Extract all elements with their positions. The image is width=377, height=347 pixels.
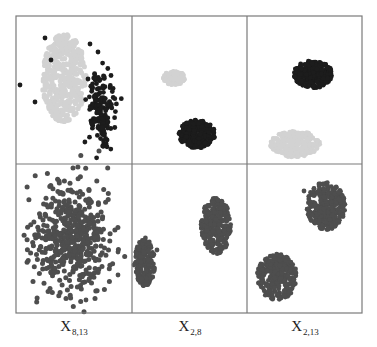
data-point: [308, 80, 313, 85]
data-point: [273, 269, 278, 274]
data-point: [31, 243, 36, 248]
data-point: [284, 132, 289, 137]
data-point: [67, 278, 72, 283]
data-point: [87, 135, 92, 140]
data-point: [87, 197, 92, 202]
data-point: [101, 90, 106, 95]
data-point: [26, 258, 31, 263]
data-point: [215, 242, 220, 247]
data-point: [65, 240, 70, 245]
data-point: [69, 228, 74, 233]
data-point: [103, 136, 108, 141]
data-point: [198, 132, 203, 137]
data-point: [50, 80, 55, 85]
data-point: [28, 250, 33, 255]
data-point: [138, 254, 143, 259]
data-point: [174, 70, 179, 75]
data-point: [289, 260, 294, 265]
data-point: [203, 141, 208, 146]
data-point: [313, 202, 318, 207]
data-point: [139, 260, 144, 265]
data-point: [303, 149, 308, 154]
data-point: [103, 200, 108, 205]
data-point: [71, 304, 76, 309]
data-point: [214, 247, 219, 252]
data-point: [100, 85, 105, 90]
data-point: [278, 254, 283, 259]
data-point: [228, 222, 233, 227]
data-point: [48, 109, 53, 114]
data-point: [337, 198, 342, 203]
column-label-1-main: X: [60, 318, 71, 334]
data-point: [184, 134, 189, 139]
data-point: [95, 230, 100, 235]
data-point: [57, 238, 62, 243]
data-point: [278, 264, 283, 269]
data-point: [162, 78, 167, 83]
data-point: [41, 77, 46, 82]
data-point: [75, 234, 80, 239]
data-point: [43, 237, 48, 242]
column-label-1-subscript: 8,13: [72, 327, 88, 337]
data-point: [92, 249, 97, 254]
data-point: [299, 79, 304, 84]
column-label-2: X2,8: [178, 318, 201, 337]
data-point: [223, 245, 228, 250]
data-point: [31, 279, 36, 284]
data-point: [64, 296, 69, 301]
data-point: [289, 139, 294, 144]
data-point: [225, 215, 230, 220]
data-point: [259, 285, 264, 290]
data-point: [95, 87, 100, 92]
data-point: [77, 260, 82, 265]
data-point: [44, 82, 49, 87]
data-point: [57, 232, 62, 237]
data-point: [53, 246, 58, 251]
data-point: [144, 282, 149, 287]
data-point: [212, 135, 217, 140]
data-point: [307, 142, 312, 147]
data-point: [321, 186, 326, 191]
data-point: [206, 245, 211, 250]
data-point: [51, 226, 56, 231]
data-point: [108, 126, 113, 131]
data-point: [276, 149, 281, 154]
data-point: [95, 219, 100, 224]
data-point: [139, 276, 144, 281]
data-point: [293, 67, 298, 72]
data-point: [63, 101, 68, 106]
data-point: [93, 296, 98, 301]
data-point: [71, 112, 76, 117]
data-point: [299, 67, 304, 72]
data-point: [265, 269, 270, 274]
data-point: [79, 49, 84, 54]
data-point: [322, 207, 327, 212]
data-point: [319, 71, 324, 76]
data-point: [79, 91, 84, 96]
data-point: [32, 264, 37, 269]
data-point: [176, 78, 181, 83]
data-point: [272, 285, 277, 290]
data-point: [258, 264, 263, 269]
data-point: [310, 61, 315, 66]
data-point: [304, 72, 309, 77]
data-point: [43, 36, 48, 41]
data-point: [78, 299, 83, 304]
data-point: [100, 216, 105, 221]
data-point: [56, 293, 61, 298]
data-point: [208, 222, 213, 227]
data-point: [277, 284, 282, 289]
data-point: [59, 208, 64, 213]
data-point: [94, 98, 99, 103]
data-point: [72, 249, 77, 254]
data-point: [144, 268, 149, 273]
data-point: [50, 196, 55, 201]
data-point: [94, 81, 99, 86]
data-point: [60, 75, 65, 80]
column-label-3-subscript: 2,13: [303, 327, 319, 337]
data-point: [58, 249, 63, 254]
data-point: [66, 253, 71, 258]
data-point: [37, 247, 42, 252]
data-point: [221, 240, 226, 245]
data-point: [109, 73, 114, 78]
